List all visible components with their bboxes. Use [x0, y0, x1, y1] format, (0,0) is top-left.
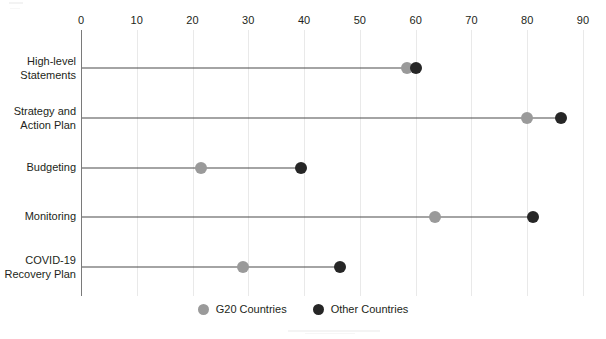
x-tick-label: 20 — [186, 14, 198, 26]
data-point-other — [410, 62, 422, 74]
data-point-other — [555, 112, 567, 124]
legend-item[interactable]: Other Countries — [313, 303, 409, 315]
row-connector-line — [81, 167, 301, 168]
category-label: Budgeting — [2, 161, 76, 175]
legend-dot-icon — [198, 304, 209, 315]
x-tick-label: 40 — [298, 14, 310, 26]
row-connector-line — [81, 216, 533, 217]
x-tick-label: 30 — [242, 14, 254, 26]
row-connector-line — [81, 118, 561, 119]
data-point-g20 — [429, 211, 441, 223]
x-tick-label: 90 — [577, 14, 589, 26]
gridline-10 — [137, 30, 138, 296]
gridline-30 — [248, 30, 249, 296]
data-point-other — [295, 162, 307, 174]
category-label: High-level Statements — [2, 55, 76, 82]
x-tick-label: 10 — [131, 14, 143, 26]
data-point-g20 — [195, 162, 207, 174]
x-tick-label: 50 — [354, 14, 366, 26]
gridline-20 — [193, 30, 194, 296]
legend-label: G20 Countries — [216, 303, 287, 315]
data-point-other — [527, 211, 539, 223]
chart-legend: G20 CountriesOther Countries — [0, 303, 606, 315]
legend-label: Other Countries — [331, 303, 409, 315]
row-connector-line — [81, 68, 416, 69]
plot-area: 0102030405060708090 High-level Statement… — [0, 0, 606, 339]
y-axis-line — [81, 30, 82, 296]
data-point-g20 — [521, 112, 533, 124]
x-tick-label: 80 — [521, 14, 533, 26]
x-tick-label: 60 — [409, 14, 421, 26]
gridline-50 — [360, 30, 361, 296]
x-tick-label: 70 — [465, 14, 477, 26]
gridline-80 — [527, 30, 528, 296]
gridline-70 — [471, 30, 472, 296]
category-label: COVID-19 Recovery Plan — [2, 254, 76, 281]
category-label: Strategy and Action Plan — [2, 105, 76, 132]
dumbbell-chart: 0102030405060708090 High-level Statement… — [0, 0, 606, 339]
gridline-90 — [583, 30, 584, 296]
legend-item[interactable]: G20 Countries — [198, 303, 287, 315]
data-point-other — [334, 261, 346, 273]
legend-dot-icon — [313, 304, 324, 315]
x-tick-label: 0 — [78, 14, 84, 26]
category-label: Monitoring — [2, 210, 76, 224]
row-connector-line — [81, 267, 340, 268]
data-point-g20 — [237, 261, 249, 273]
